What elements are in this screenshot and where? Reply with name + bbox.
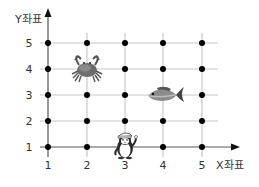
grid-point: [122, 92, 128, 98]
grid-point: [122, 66, 128, 72]
x-tick-label: 5: [199, 159, 206, 172]
axes: [40, 8, 240, 157]
grid-point: [84, 144, 90, 150]
grid-point: [45, 144, 51, 150]
grid-point: [45, 92, 51, 98]
grid-point: [160, 118, 166, 124]
grid-point: [199, 66, 205, 72]
y-tick-label: 2: [26, 115, 33, 128]
grid-point: [84, 92, 90, 98]
grid-point: [45, 40, 51, 46]
grid-point: [122, 118, 128, 124]
grid-point: [160, 66, 166, 72]
grid-point: [160, 40, 166, 46]
x-tick-label: 4: [160, 159, 167, 172]
x-tick-label: 3: [122, 159, 129, 172]
grid-point: [84, 40, 90, 46]
grid-point: [45, 118, 51, 124]
y-axis-arrow-icon: [45, 8, 52, 17]
grid-point: [45, 66, 51, 72]
grid-point: [199, 92, 205, 98]
grid-point: [199, 118, 205, 124]
coordinate-grid-diagram: Y좌표 X좌표 1234512345: [0, 0, 259, 187]
grid-point: [160, 144, 166, 150]
x-tick-label: 2: [84, 159, 91, 172]
y-tick-label: 4: [26, 63, 33, 76]
grid-point: [199, 40, 205, 46]
y-axis-label: Y좌표: [14, 13, 42, 26]
grid-point: [84, 118, 90, 124]
grid-point: [199, 144, 205, 150]
fish-icon: [148, 87, 184, 102]
y-tick-label: 1: [26, 141, 33, 154]
grid-point: [122, 40, 128, 46]
x-axis-label: X좌표: [216, 159, 244, 172]
y-tick-label: 5: [26, 37, 33, 50]
penguin-icon: [115, 133, 137, 159]
y-tick-label: 3: [26, 89, 33, 102]
x-tick-label: 1: [45, 159, 52, 172]
x-axis-arrow-icon: [231, 144, 240, 151]
